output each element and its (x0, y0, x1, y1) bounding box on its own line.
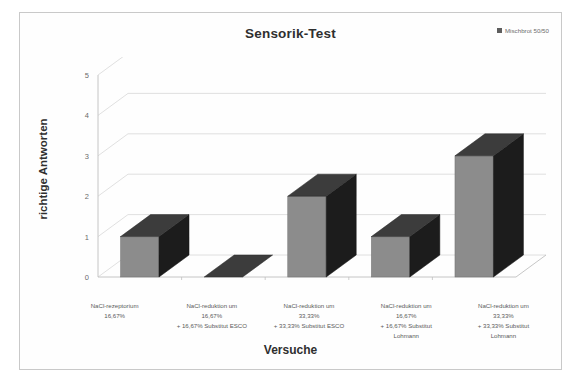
y-axis-tick-label: 2 (85, 192, 89, 201)
y-axis-tick-label: 0 (85, 273, 89, 282)
category-label-line: + 16,67% Substitut ESCO (164, 321, 259, 331)
legend-label: Mischbrot 50/50 (505, 27, 549, 34)
category-label-line: NaCl-reduktion um (261, 301, 356, 311)
category-label-line: 33,33% (456, 311, 551, 321)
y-axis-tick-label: 4 (85, 111, 89, 120)
legend-swatch-icon (497, 28, 502, 33)
x-axis-title: Versuche (20, 343, 561, 357)
bar-column (371, 215, 439, 277)
category-label-line: NaCl-reduktion um (359, 301, 454, 311)
category-label-line: Lohmann (359, 331, 454, 341)
bar-column (121, 215, 189, 277)
bar-column (288, 174, 356, 277)
category-label-line: 33,33% (261, 311, 356, 321)
category-label-line: NaCl-reduktion um (164, 301, 259, 311)
category-label-line: 16,67% (164, 311, 259, 321)
category-label-line: Lohmann (456, 331, 551, 341)
category-label-line: 16,67% (67, 311, 162, 321)
bar-column (455, 134, 523, 277)
y-axis-tick-label: 5 (85, 71, 89, 80)
y-axis-tick-label: 1 (85, 233, 89, 242)
chart-frame: Sensorik-Test Mischbrot 50/50 richtige A… (19, 12, 562, 370)
chart-legend: Mischbrot 50/50 (497, 27, 549, 34)
category-label-line: + 33,33% Substitut (456, 321, 551, 331)
category-label-line: NaCl-rezeptorium (67, 301, 162, 311)
category-label-line: NaCl-reduktion um (456, 301, 551, 311)
chart-title: Sensorik-Test (20, 26, 561, 41)
category-label-line: + 16,67% Substitut (359, 321, 454, 331)
plot-svg: 012345 (66, 57, 552, 294)
y-axis-title: richtige Antworten (37, 84, 49, 254)
y-axis-tick-label: 3 (85, 152, 89, 161)
bar-column (204, 255, 272, 277)
plot-area: 012345 (66, 57, 552, 294)
category-label-line: + 33,33% Substitut ESCO (261, 321, 356, 331)
category-label-line: 16,67% (359, 311, 454, 321)
